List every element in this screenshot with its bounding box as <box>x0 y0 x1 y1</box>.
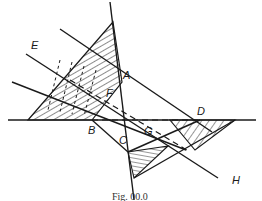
label-E: E <box>31 40 38 51</box>
geometry-diagram <box>0 0 262 201</box>
hatched-region-upper <box>28 22 122 120</box>
label-G: G <box>144 126 153 137</box>
label-B: B <box>88 125 95 136</box>
vertical-line <box>110 2 134 200</box>
hatched-region-right <box>170 120 235 150</box>
figure-caption: Fig. 00.0 <box>112 192 148 201</box>
label-C: C <box>119 135 127 146</box>
label-D: D <box>197 106 205 117</box>
label-H: H <box>232 175 240 186</box>
label-A: A <box>123 70 130 81</box>
label-F: F <box>106 88 113 99</box>
